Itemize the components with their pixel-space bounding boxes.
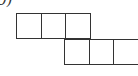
net-square xyxy=(89,39,115,65)
net-square xyxy=(113,39,138,65)
figure-label: д) xyxy=(0,0,12,8)
net-square xyxy=(64,39,90,65)
net-square xyxy=(16,13,42,39)
net-square xyxy=(41,13,67,39)
net-square xyxy=(65,13,91,39)
